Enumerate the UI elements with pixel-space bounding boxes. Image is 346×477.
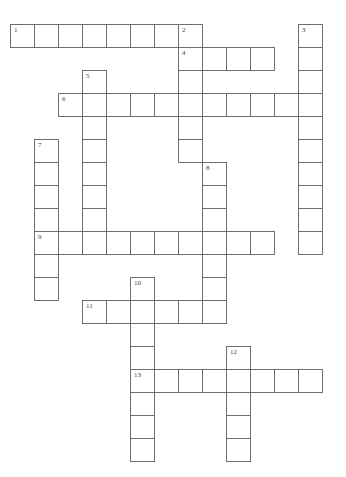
crossword-cell[interactable] <box>178 70 203 94</box>
crossword-cell[interactable] <box>298 93 323 117</box>
crossword-cell[interactable] <box>250 231 275 255</box>
crossword-cell[interactable]: 11 <box>82 300 107 324</box>
crossword-cell[interactable] <box>298 185 323 209</box>
crossword-cell[interactable] <box>130 231 155 255</box>
crossword-cell[interactable] <box>178 139 203 163</box>
clue-number: 2 <box>182 27 186 34</box>
crossword-cell[interactable] <box>178 231 203 255</box>
crossword-cell[interactable] <box>82 93 107 117</box>
crossword-cell[interactable] <box>202 300 227 324</box>
crossword-cell[interactable] <box>178 369 203 393</box>
clue-number: 8 <box>206 165 210 172</box>
crossword-cell[interactable]: 8 <box>202 162 227 186</box>
crossword-cell[interactable] <box>82 24 107 48</box>
crossword-cell[interactable] <box>130 346 155 370</box>
crossword-cell[interactable]: 5 <box>82 70 107 94</box>
crossword-cell[interactable] <box>82 231 107 255</box>
crossword-cell[interactable]: 10 <box>130 277 155 301</box>
crossword-cell[interactable] <box>58 24 83 48</box>
crossword-cell[interactable] <box>34 162 59 186</box>
crossword-cell[interactable] <box>202 231 227 255</box>
clue-number: 5 <box>86 73 90 80</box>
crossword-grid: 12435679810131112 <box>0 0 346 477</box>
crossword-cell[interactable] <box>178 116 203 140</box>
crossword-cell[interactable] <box>130 438 155 462</box>
crossword-cell[interactable]: 6 <box>58 93 83 117</box>
crossword-cell[interactable] <box>82 162 107 186</box>
clue-number: 11 <box>86 303 93 310</box>
crossword-cell[interactable] <box>202 47 227 71</box>
crossword-cell[interactable] <box>298 116 323 140</box>
crossword-cell[interactable] <box>130 300 155 324</box>
crossword-cell[interactable] <box>226 369 251 393</box>
crossword-cell[interactable] <box>154 300 179 324</box>
crossword-cell[interactable] <box>226 47 251 71</box>
crossword-cell[interactable] <box>106 93 131 117</box>
crossword-cell[interactable] <box>202 254 227 278</box>
crossword-cell[interactable] <box>106 300 131 324</box>
crossword-cell[interactable]: 1 <box>10 24 35 48</box>
clue-number: 10 <box>134 280 141 287</box>
crossword-cell[interactable] <box>178 300 203 324</box>
clue-number: 6 <box>62 96 66 103</box>
crossword-cell[interactable] <box>106 231 131 255</box>
crossword-cell[interactable] <box>130 392 155 416</box>
crossword-cell[interactable] <box>226 231 251 255</box>
clue-number: 9 <box>38 234 42 241</box>
crossword-cell[interactable] <box>82 139 107 163</box>
crossword-cell[interactable] <box>154 24 179 48</box>
crossword-cell[interactable] <box>226 392 251 416</box>
crossword-cell[interactable] <box>226 438 251 462</box>
crossword-cell[interactable] <box>202 208 227 232</box>
crossword-cell[interactable]: 7 <box>34 139 59 163</box>
clue-number: 12 <box>230 349 237 356</box>
crossword-cell[interactable] <box>298 70 323 94</box>
crossword-cell[interactable] <box>202 93 227 117</box>
crossword-cell[interactable] <box>82 116 107 140</box>
crossword-cell[interactable] <box>58 231 83 255</box>
crossword-cell[interactable]: 2 <box>178 24 203 48</box>
crossword-cell[interactable] <box>250 93 275 117</box>
clue-number: 3 <box>302 27 306 34</box>
crossword-cell[interactable]: 9 <box>34 231 59 255</box>
clue-number: 4 <box>182 50 186 57</box>
crossword-cell[interactable]: 12 <box>226 346 251 370</box>
crossword-cell[interactable] <box>202 369 227 393</box>
crossword-cell[interactable] <box>34 24 59 48</box>
clue-number: 13 <box>134 372 141 379</box>
crossword-cell[interactable]: 13 <box>130 369 155 393</box>
crossword-cell[interactable]: 3 <box>298 24 323 48</box>
crossword-cell[interactable] <box>250 369 275 393</box>
crossword-cell[interactable] <box>298 139 323 163</box>
crossword-cell[interactable] <box>298 369 323 393</box>
crossword-cell[interactable] <box>226 93 251 117</box>
crossword-cell[interactable] <box>298 208 323 232</box>
crossword-cell[interactable] <box>34 254 59 278</box>
crossword-cell[interactable] <box>130 93 155 117</box>
crossword-cell[interactable] <box>34 208 59 232</box>
crossword-cell[interactable] <box>202 277 227 301</box>
crossword-cell[interactable] <box>298 231 323 255</box>
crossword-cell[interactable] <box>130 24 155 48</box>
crossword-cell[interactable] <box>250 47 275 71</box>
crossword-cell[interactable] <box>154 231 179 255</box>
clue-number: 1 <box>14 27 18 34</box>
crossword-cell[interactable] <box>130 415 155 439</box>
crossword-cell[interactable] <box>154 369 179 393</box>
crossword-cell[interactable] <box>226 415 251 439</box>
crossword-cell[interactable] <box>178 93 203 117</box>
crossword-cell[interactable] <box>106 24 131 48</box>
crossword-cell[interactable] <box>202 185 227 209</box>
crossword-cell[interactable] <box>82 185 107 209</box>
crossword-cell[interactable] <box>154 93 179 117</box>
crossword-cell[interactable]: 4 <box>178 47 203 71</box>
crossword-cell[interactable] <box>274 369 299 393</box>
crossword-cell[interactable] <box>82 208 107 232</box>
clue-number: 7 <box>38 142 42 149</box>
crossword-cell[interactable] <box>274 93 299 117</box>
crossword-cell[interactable] <box>34 185 59 209</box>
crossword-cell[interactable] <box>298 162 323 186</box>
crossword-cell[interactable] <box>298 47 323 71</box>
crossword-cell[interactable] <box>34 277 59 301</box>
crossword-cell[interactable] <box>130 323 155 347</box>
